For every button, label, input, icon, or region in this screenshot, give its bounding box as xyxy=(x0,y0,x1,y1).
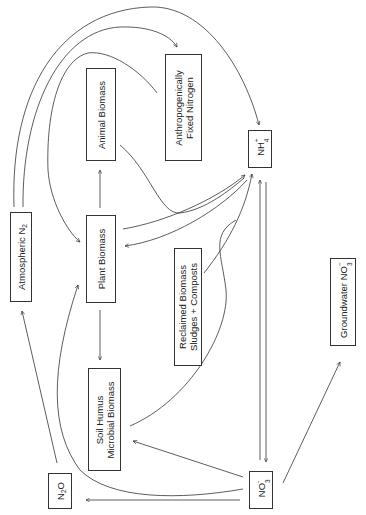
node-reclaimed-label: Reclaimed Biomass Sludges + Composts xyxy=(177,263,199,351)
node-no3: NO-3 xyxy=(249,471,273,509)
node-anthropogenic-label: Anthropogenically Fixed Nitrogen xyxy=(173,70,195,146)
arrow-no3-to-plant xyxy=(57,285,243,496)
node-groundwater-label: Groundwater NO−3 xyxy=(338,266,349,338)
node-atmospheric-n2: Atmospheric N2 xyxy=(10,212,32,302)
node-n2o-label: N2O xyxy=(55,482,66,500)
node-anthropogenic-fixed-nitrogen: Anthropogenically Fixed Nitrogen xyxy=(165,54,202,161)
node-nh4-label: NH+4 xyxy=(255,142,266,156)
node-groundwater-no3: Groundwater NO−3 xyxy=(330,258,356,346)
node-animal-biomass-label: Animal Biomass xyxy=(96,80,107,148)
arrow-reclaimed-to-nh4 xyxy=(204,174,252,273)
arrow-plant-to-nh4 xyxy=(123,175,245,229)
node-nh4: NH+4 xyxy=(248,130,272,168)
node-soil-humus: Soil Humus Microbial Biomass xyxy=(88,368,121,471)
node-no3-label: NO-3 xyxy=(256,483,267,497)
node-soil-humus-label: Soil Humus Microbial Biomass xyxy=(94,381,116,458)
node-atmospheric-n2-label: Atmospheric N2 xyxy=(16,224,27,290)
node-plant-biomass-label: Plant Biomass xyxy=(96,229,107,290)
node-animal-biomass: Animal Biomass xyxy=(86,68,116,161)
arrow-no3-to-soil xyxy=(133,441,243,477)
node-n2o: N2O xyxy=(48,473,72,509)
arrow-no3-to-groundwater xyxy=(283,362,340,483)
node-reclaimed-biomass: Reclaimed Biomass Sludges + Composts xyxy=(174,248,202,366)
node-plant-biomass: Plant Biomass xyxy=(86,215,116,303)
arrow-n2o-to-atm xyxy=(22,311,57,463)
arrow-atm-to-nh4 xyxy=(14,7,259,207)
